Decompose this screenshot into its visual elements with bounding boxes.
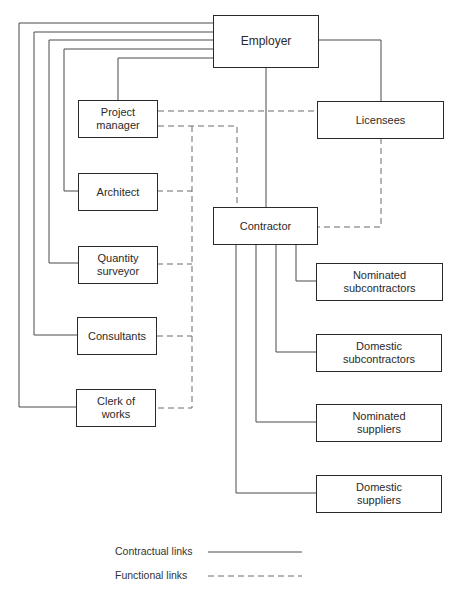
node-licensees: Licensees (317, 101, 444, 139)
node-nominated-suppliers: Nominated suppliers (316, 404, 442, 442)
node-contractor: Contractor (213, 207, 318, 245)
legend-contractual-label: Contractual links (115, 545, 193, 557)
node-nominated-subcontractors: Nominated subcontractors (316, 263, 443, 301)
node-domestic-subcontractors: Domestic subcontractors (316, 334, 442, 372)
node-project-manager: Project manager (78, 100, 158, 138)
node-domestic-suppliers: Domestic suppliers (316, 475, 442, 513)
node-employer: Employer (213, 15, 319, 68)
node-consultants: Consultants (77, 317, 157, 355)
node-architect: Architect (78, 173, 158, 211)
node-quantity-surveyor: Quantity surveyor (78, 246, 158, 284)
node-clerk-of-works: Clerk of works (76, 389, 156, 427)
legend-functional-label: Functional links (115, 569, 187, 581)
